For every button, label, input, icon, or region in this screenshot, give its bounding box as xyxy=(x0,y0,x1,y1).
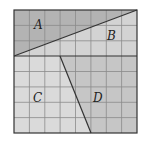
grid-diagram: A B C D xyxy=(0,0,144,148)
label-b: B xyxy=(106,29,116,43)
label-a: A xyxy=(33,18,43,32)
label-d: D xyxy=(92,91,103,105)
label-c: C xyxy=(33,91,42,105)
